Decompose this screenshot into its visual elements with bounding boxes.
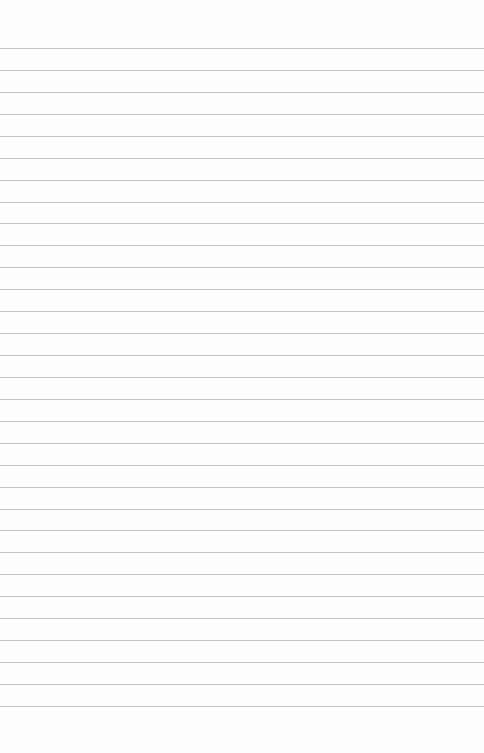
ruled-line [0, 618, 484, 619]
lined-paper [0, 0, 484, 753]
ruled-line [0, 114, 484, 115]
ruled-line [0, 48, 484, 49]
ruled-line [0, 684, 484, 685]
ruled-line [0, 706, 484, 707]
ruled-line [0, 399, 484, 400]
ruled-line [0, 596, 484, 597]
ruled-line [0, 421, 484, 422]
ruled-line [0, 443, 484, 444]
ruled-line [0, 640, 484, 641]
ruled-line [0, 487, 484, 488]
ruled-line [0, 574, 484, 575]
ruled-line [0, 509, 484, 510]
ruled-line [0, 223, 484, 224]
ruled-line [0, 552, 484, 553]
ruled-line [0, 289, 484, 290]
ruled-line [0, 92, 484, 93]
ruled-line [0, 70, 484, 71]
ruled-line [0, 530, 484, 531]
ruled-line [0, 377, 484, 378]
ruled-line [0, 202, 484, 203]
ruled-line [0, 267, 484, 268]
ruled-line [0, 333, 484, 334]
ruled-line [0, 136, 484, 137]
ruled-line [0, 662, 484, 663]
ruled-line [0, 180, 484, 181]
ruled-line [0, 245, 484, 246]
ruled-line [0, 355, 484, 356]
ruled-line [0, 158, 484, 159]
ruled-line [0, 311, 484, 312]
ruled-line [0, 465, 484, 466]
